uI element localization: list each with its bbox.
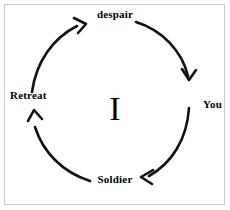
arc-soldier-to-retreat <box>35 127 90 181</box>
arc-despair-to-you <box>136 22 188 76</box>
center-label: I <box>0 92 230 126</box>
node-label-soldier: Soldier <box>97 174 132 185</box>
arrowhead-left-soldier <box>141 170 153 184</box>
arc-retreat-to-despair <box>32 26 77 92</box>
node-label-despair: despair <box>97 9 133 20</box>
diagram-canvas: despair You Soldier Retreat I <box>0 0 230 210</box>
arrowhead-down-you <box>182 69 196 80</box>
